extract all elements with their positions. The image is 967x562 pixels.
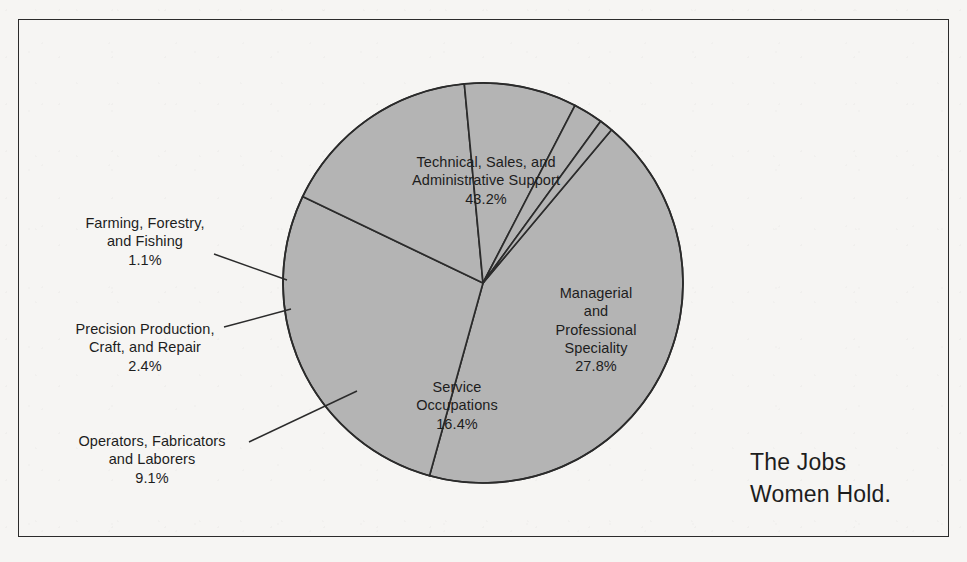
callout-label-operators-fabricators-laborers: Operators, Fabricators and Laborers 9.1%: [53, 432, 251, 487]
slice-label-service-occupations: Service Occupations 16.4%: [393, 378, 521, 433]
slice-label-managerial-professional: Managerial and Professional Speciality 2…: [521, 284, 671, 375]
callout-label-farming-forestry-fishing: Farming, Forestry, and Fishing 1.1%: [56, 214, 234, 269]
figure-pie-chart: Technical, Sales, and Administrative Sup…: [0, 0, 967, 562]
slice-label-technical-sales-administrative: Technical, Sales, and Administrative Sup…: [383, 153, 589, 208]
callout-label-precision-production-craft-repair: Precision Production, Craft, and Repair …: [50, 320, 240, 375]
figure-caption: The Jobs Women Hold.: [750, 447, 891, 510]
